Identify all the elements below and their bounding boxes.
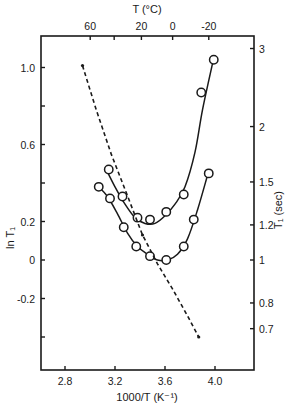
plot-frame: [41, 36, 254, 370]
data-series: [81, 56, 218, 339]
y-tick-label: 1.0: [20, 62, 35, 74]
data-point-circle: [180, 190, 188, 198]
data-point-circle: [105, 165, 113, 173]
x-tick-label: 3.6: [158, 375, 173, 387]
right-tick-label: 1: [259, 254, 265, 266]
dashed-line: [83, 66, 199, 337]
series-2: [81, 64, 200, 339]
top-tick-label: 0: [170, 20, 176, 32]
data-point-circle: [146, 215, 154, 223]
data-point-circle: [95, 183, 103, 191]
plot-border: [41, 36, 254, 370]
axis-ticks: 2.83.23.64.0-0.200.20.61.060200-20321.51…: [17, 20, 274, 387]
y-axis-label: ln T₁: [4, 227, 16, 249]
data-point-circle: [180, 242, 188, 250]
dashed-line-dot: [81, 64, 84, 67]
right-tick-label: 1.5: [259, 176, 274, 188]
chart-svg: 2.83.23.64.0-0.200.20.61.060200-20321.51…: [0, 0, 293, 406]
dashed-line-dot: [141, 233, 144, 236]
x-tick-label: 2.8: [58, 375, 73, 387]
dashed-line-dot: [197, 335, 200, 338]
right-tick-label: 0.8: [259, 297, 274, 309]
x-axis-label: 1000/T (K⁻¹): [116, 391, 177, 403]
y-tick-label: 0.6: [20, 139, 35, 151]
right-tick-label: 0.7: [259, 323, 274, 335]
right-tick-label: 3: [259, 43, 265, 55]
chart: 2.83.23.64.0-0.200.20.61.060200-20321.51…: [0, 0, 293, 406]
data-point-circle: [162, 256, 170, 264]
data-point-circle: [132, 242, 140, 250]
x-tick-label: 4.0: [208, 375, 223, 387]
data-point-circle: [118, 192, 126, 200]
data-point-circle: [210, 56, 218, 64]
top-tick-label: 20: [136, 20, 148, 32]
x-tick-label: 3.2: [108, 375, 123, 387]
y-tick-label: 0.2: [20, 216, 35, 228]
y-tick-label: 0: [29, 254, 35, 266]
right-tick-label: 2: [259, 121, 265, 133]
top-axis-label: T (°C): [132, 3, 161, 15]
right-axis-label: T₁ (sec): [272, 191, 284, 229]
data-point-circle: [190, 215, 198, 223]
data-point-circle: [106, 194, 114, 202]
data-point-circle: [120, 223, 128, 231]
top-tick-label: -20: [201, 20, 216, 32]
data-point-circle: [162, 208, 170, 216]
y-tick-label: -0.2: [17, 293, 35, 305]
top-tick-label: 60: [84, 20, 96, 32]
data-point-circle: [197, 88, 205, 96]
data-point-circle: [205, 169, 213, 177]
